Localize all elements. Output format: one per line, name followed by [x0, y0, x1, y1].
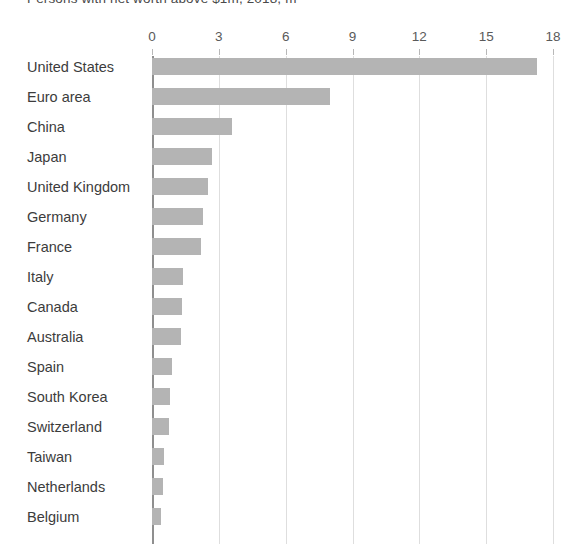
category-label-united-kingdom: United Kingdom: [27, 177, 137, 197]
category-label-united-states: United States: [27, 57, 137, 77]
bar-canada: [152, 298, 182, 315]
x-axis-tick-label-9: 9: [349, 29, 357, 44]
x-axis-tick-mark-0: [152, 49, 153, 55]
bar-belgium: [152, 508, 161, 525]
chart-row: Spain: [0, 356, 581, 386]
bar-netherlands: [152, 478, 163, 495]
chart-row: Australia: [0, 326, 581, 356]
category-label-germany: Germany: [27, 207, 137, 227]
x-axis-tick-label-3: 3: [215, 29, 223, 44]
chart-row: United Kingdom: [0, 176, 581, 206]
bar-germany: [152, 208, 203, 225]
chart-row: Euro area: [0, 86, 581, 116]
bar-south-korea: [152, 388, 170, 405]
bar-taiwan: [152, 448, 164, 465]
bar-spain: [152, 358, 172, 375]
chart-row: Belgium: [0, 506, 581, 536]
category-label-south-korea: South Korea: [27, 387, 137, 407]
category-label-euro-area: Euro area: [27, 87, 137, 107]
chart-row: China: [0, 116, 581, 146]
x-axis-tick-label-0: 0: [148, 29, 156, 44]
x-axis-tick-label-15: 15: [479, 29, 494, 44]
category-label-switzerland: Switzerland: [27, 417, 137, 437]
x-axis-tick-label-18: 18: [545, 29, 560, 44]
chart-row: Taiwan: [0, 446, 581, 476]
chart-row: Canada: [0, 296, 581, 326]
category-label-canada: Canada: [27, 297, 137, 317]
chart-row: Italy: [0, 266, 581, 296]
bar-japan: [152, 148, 212, 165]
category-label-spain: Spain: [27, 357, 137, 377]
category-label-australia: Australia: [27, 327, 137, 347]
chart-title: Persons with net worth above $1m, 2018, …: [27, 0, 297, 7]
chart-row: Netherlands: [0, 476, 581, 506]
chart-row: United States: [0, 56, 581, 86]
bar-united-kingdom: [152, 178, 208, 195]
x-axis-tick-mark-15: [486, 49, 487, 55]
chart-row: Japan: [0, 146, 581, 176]
chart-row: Switzerland: [0, 416, 581, 446]
x-axis-tick-label-12: 12: [412, 29, 427, 44]
bar-united-states: [152, 58, 537, 75]
x-axis-tick-mark-12: [419, 49, 420, 55]
x-axis-tick-mark-6: [286, 49, 287, 55]
x-axis-tick-mark-9: [353, 49, 354, 55]
category-label-belgium: Belgium: [27, 507, 137, 527]
bar-china: [152, 118, 232, 135]
category-label-italy: Italy: [27, 267, 137, 287]
bar-australia: [152, 328, 181, 345]
x-axis-tick-label-6: 6: [282, 29, 290, 44]
category-label-france: France: [27, 237, 137, 257]
bar-france: [152, 238, 201, 255]
category-label-japan: Japan: [27, 147, 137, 167]
chart-row: France: [0, 236, 581, 266]
chart-row: South Korea: [0, 386, 581, 416]
x-axis-tick-mark-3: [219, 49, 220, 55]
bar-chart: Persons with net worth above $1m, 2018, …: [0, 0, 581, 544]
category-label-taiwan: Taiwan: [27, 447, 137, 467]
bar-euro-area: [152, 88, 330, 105]
chart-rows: United StatesEuro areaChinaJapanUnited K…: [0, 56, 581, 536]
x-axis-tick-mark-18: [553, 49, 554, 55]
bar-italy: [152, 268, 183, 285]
category-label-china: China: [27, 117, 137, 137]
chart-row: Germany: [0, 206, 581, 236]
category-label-netherlands: Netherlands: [27, 477, 137, 497]
bar-switzerland: [152, 418, 169, 435]
